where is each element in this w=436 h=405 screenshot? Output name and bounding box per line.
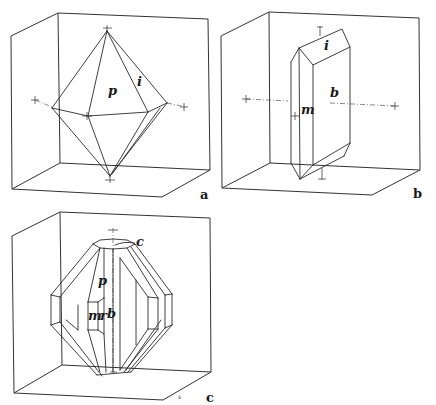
octahedron-crystal <box>52 31 167 176</box>
reference-box-a <box>11 13 210 197</box>
figure-label-a: a <box>200 187 209 202</box>
figure-label-b: b <box>413 186 422 201</box>
prismatic-crystal <box>291 29 350 179</box>
small-mark: s <box>178 393 181 400</box>
face-label-p: p <box>108 83 117 98</box>
figure-b: i b m b <box>221 12 422 201</box>
face-label-i: i <box>137 74 142 89</box>
face-label-b: b <box>107 306 116 321</box>
crystal-figure-plate: p i a <box>0 0 436 405</box>
face-label-b: b <box>330 85 339 100</box>
face-label-c: c <box>136 234 144 249</box>
figure-label-c: c <box>206 390 214 405</box>
face-label-p: p <box>98 273 107 288</box>
figure-c: c p m r b s c <box>12 212 214 405</box>
figure-a: p i a <box>11 13 210 202</box>
reference-box-b <box>221 12 420 195</box>
face-label-i: i <box>324 38 329 53</box>
axes-b <box>242 26 399 180</box>
face-label-m: m <box>301 102 315 117</box>
